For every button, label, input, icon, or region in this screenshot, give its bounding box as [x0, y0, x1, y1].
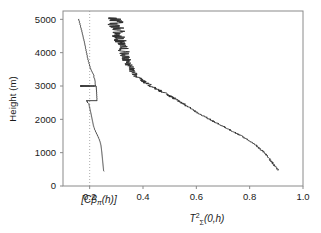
figure-container: 010002000300040005000 0.20.40.60.81.0 He…	[0, 0, 321, 233]
y-tick-label: 4000	[35, 47, 56, 58]
x-tick-label: 0.4	[136, 191, 149, 202]
y-tick-label: 1000	[35, 147, 56, 158]
y-axis-title: Height (m)	[7, 76, 18, 121]
x-axis-title: T2Σ(0,h)	[190, 212, 225, 225]
y-tick-label: 5000	[35, 14, 56, 25]
y-tick-label: 0	[51, 180, 56, 191]
y-tick-label: 3000	[35, 80, 56, 91]
lidar-profile-chart: 010002000300040005000 0.20.40.60.81.0 He…	[0, 0, 321, 233]
x-tick-label: 0.6	[190, 191, 203, 202]
y-tick-label: 2000	[35, 114, 56, 125]
x-tick-label: 0.8	[243, 191, 256, 202]
x-tick-label: 1.0	[296, 191, 309, 202]
